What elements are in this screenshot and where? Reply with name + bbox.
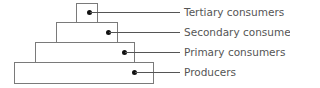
label-primary-consumers: Primary consumers <box>184 46 285 58</box>
label-secondary-consumers: Secondary consumers <box>184 26 290 38</box>
tier-primary-consumers <box>35 42 135 63</box>
leader-line-secondary <box>109 32 180 33</box>
leader-line-primary <box>125 52 180 53</box>
leader-line-tertiary <box>90 12 180 13</box>
leader-line-producers <box>135 72 180 73</box>
label-producers: Producers <box>184 66 236 78</box>
label-tertiary-consumers: Tertiary consumers <box>184 6 284 18</box>
